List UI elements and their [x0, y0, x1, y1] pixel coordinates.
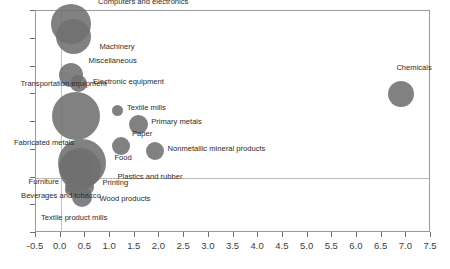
data-point-label: Beverages and tobacco [21, 192, 101, 201]
data-point-label: Chemicals [396, 64, 431, 73]
data-point-label: Textile product mills [41, 214, 107, 223]
data-point-label: Transportation equipment [21, 80, 107, 89]
data-point-label: Furniture [29, 178, 59, 187]
data-point-label: Textile mills [127, 104, 166, 113]
data-point-label: Paper [132, 130, 152, 139]
data-point-label: Primary metals [151, 118, 202, 127]
data-point-label: Nonmetallic mineral products [167, 145, 265, 154]
data-point-label: Printing [102, 179, 128, 188]
data-point-label: Machinery [100, 43, 135, 52]
bubble-chart: 302520151050-5-10 -0.50.00.51.01.52.02.5… [0, 0, 450, 269]
data-label-layer: Computers and electronicsMachineryMiscel… [0, 0, 450, 269]
data-point-label: Fabricated metals [14, 139, 74, 148]
data-point-label: Miscellaneous [89, 57, 137, 66]
data-point-label: Computers and electronics [98, 0, 188, 7]
data-point-label: Wood products [99, 195, 150, 204]
data-point-label: Food [114, 154, 131, 163]
